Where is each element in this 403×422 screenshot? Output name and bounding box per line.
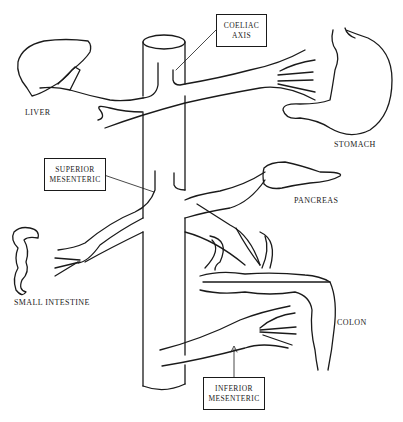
superior-leader-line xyxy=(104,175,154,192)
coeliac-line2: AXIS xyxy=(217,31,266,41)
colon-label: COLON xyxy=(337,318,367,327)
small-intestine-shape xyxy=(13,228,39,295)
stomach-label: STOMACH xyxy=(334,140,376,149)
superior-line1: SUPERIOR xyxy=(45,165,105,175)
coeliac-leader-line xyxy=(176,30,216,70)
pancreas-shape xyxy=(263,162,341,189)
pancreas-label: PANCREAS xyxy=(294,196,338,205)
superior-mesenteric-callout: SUPERIOR MESENTERIC xyxy=(44,158,106,191)
small-intestine-label: SMALL INTESTINE xyxy=(14,298,90,307)
coeliac-axis-callout: COELIAC AXIS xyxy=(216,14,267,47)
inferior-mesenteric-vessels xyxy=(160,306,296,366)
stomach-shape xyxy=(283,28,392,135)
colon-shape xyxy=(200,272,335,370)
artery-diagram xyxy=(0,0,403,422)
inferior-line1: INFERIOR xyxy=(204,384,264,394)
liver-label: LIVER xyxy=(25,108,51,117)
inferior-mesenteric-callout: INFERIOR MESENTERIC xyxy=(203,377,265,410)
inferior-line2: MESENTERIC xyxy=(204,394,264,404)
coeliac-line1: COELIAC xyxy=(217,21,266,31)
aorta xyxy=(143,35,185,390)
superior-line2: MESENTERIC xyxy=(45,175,105,185)
